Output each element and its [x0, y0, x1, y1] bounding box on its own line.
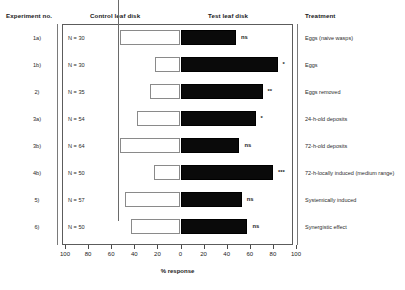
sample-size-label: N = 50: [68, 224, 102, 230]
treatment-label: 24-h-old deposits: [305, 116, 347, 122]
experiment-number: 1b): [20, 62, 54, 68]
significance-marker: *: [283, 61, 285, 67]
header-control-leaf-disk: Control leaf disk: [90, 12, 140, 19]
axis-tick-label: 80: [270, 251, 277, 257]
control-bar: [137, 111, 181, 126]
chart-row: 5)N = 57nsSystemically induced: [0, 188, 405, 214]
axis-tick-label: 100: [60, 251, 70, 257]
header-test-leaf-disk: Test leaf disk: [208, 12, 248, 19]
axis-tick: [181, 245, 182, 249]
treatment-label: 72-h-old deposits: [305, 143, 347, 149]
experiment-number: 2): [20, 89, 54, 95]
sample-size-label: N = 54: [68, 116, 102, 122]
experiment-number: 5): [20, 197, 54, 203]
control-bar: [155, 57, 180, 72]
experiment-number: 3b): [20, 143, 54, 149]
test-bar: [181, 30, 236, 45]
header-experiment-no: Experiment no.: [6, 12, 52, 19]
control-bar: [125, 192, 180, 207]
x-axis-title: % response: [0, 268, 355, 274]
axis-tick-label: 60: [246, 251, 253, 257]
axis-tick-label: 40: [223, 251, 230, 257]
control-bar: [120, 138, 180, 153]
chart-row: 4b)N = 50***72-h-locally induced (medium…: [0, 161, 405, 187]
significance-marker: ns: [244, 142, 251, 148]
axis-tick: [134, 245, 135, 249]
axis-tick-label: 100: [291, 251, 301, 257]
axis-tick: [227, 245, 228, 249]
significance-marker: ns: [241, 34, 248, 40]
test-bar: [181, 219, 248, 234]
treatment-label: Eggs (naive wasps): [305, 35, 353, 41]
experiment-number: 6): [20, 224, 54, 230]
axis-tick: [273, 245, 274, 249]
experiment-number: 3a): [20, 116, 54, 122]
sample-size-label: N = 57: [68, 197, 102, 203]
significance-marker: ***: [278, 169, 285, 175]
test-bar: [181, 138, 240, 153]
axis-tick-label: 60: [108, 251, 115, 257]
test-bar: [181, 84, 263, 99]
control-bar: [154, 165, 181, 180]
sample-size-label: N = 30: [68, 35, 102, 41]
significance-marker: ns: [247, 196, 254, 202]
treatment-label: Eggs: [305, 62, 318, 68]
axis-tick: [157, 245, 158, 249]
test-bar: [181, 165, 273, 180]
sample-size-label: N = 50: [68, 170, 102, 176]
axis-tick: [296, 245, 297, 249]
axis-tick-label: 20: [154, 251, 161, 257]
axis-tick: [111, 245, 112, 249]
axis-tick-label: 0: [179, 251, 182, 257]
axis-tick: [88, 245, 89, 249]
axis-tick-label: 20: [200, 251, 207, 257]
chart-row: 2)N = 35**Eggs removed: [0, 80, 405, 106]
sample-size-label: N = 64: [68, 143, 102, 149]
axis-tick-label: 40: [131, 251, 138, 257]
chart-row: 3b)N = 64ns72-h-old deposits: [0, 134, 405, 160]
axis-tick: [204, 245, 205, 249]
axis-tick: [65, 245, 66, 249]
axis-tick: [250, 245, 251, 249]
chart-row: 1a)N = 30nsEggs (naive wasps): [0, 26, 405, 52]
treatment-label: Synergistic effect: [305, 224, 347, 230]
test-bar: [181, 192, 242, 207]
chart-row: 3a)N = 54*24-h-old deposits: [0, 107, 405, 133]
experiment-number: 1a): [20, 35, 54, 41]
treatment-label: Systemically induced: [305, 197, 356, 203]
control-bar: [131, 219, 181, 234]
test-bar: [181, 111, 256, 126]
significance-marker: *: [261, 115, 263, 121]
treatment-label: Eggs removed: [305, 89, 340, 95]
figure-panel: Experiment no. Control leaf disk Test le…: [0, 0, 405, 290]
significance-marker: ns: [252, 223, 259, 229]
control-bar: [120, 30, 180, 45]
significance-marker: **: [268, 88, 273, 94]
sample-size-label: N = 30: [68, 62, 102, 68]
axis-tick-label: 80: [85, 251, 92, 257]
chart-row: 6)N = 50nsSynergistic effect: [0, 215, 405, 241]
treatment-label: 72-h-locally induced (medium range): [305, 170, 394, 176]
control-bar: [150, 84, 180, 99]
sample-size-label: N = 35: [68, 89, 102, 95]
test-bar: [181, 57, 278, 72]
header-treatment: Treatment: [305, 12, 335, 19]
chart-row: 1b)N = 30*Eggs: [0, 53, 405, 79]
experiment-number: 4b): [20, 170, 54, 176]
